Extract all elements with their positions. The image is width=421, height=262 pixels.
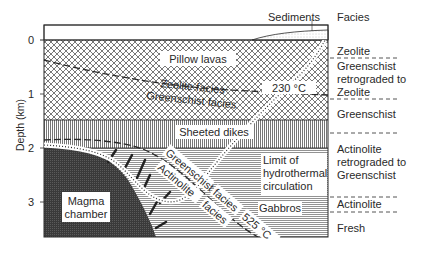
facies-fresh: Fresh	[337, 222, 365, 234]
magma-chamber-label-1: Magma	[68, 195, 106, 207]
depth-tick-3: 3	[28, 196, 34, 208]
facies-gs-retro-3: Zeolite	[337, 86, 370, 98]
facies-header: Facies	[337, 11, 370, 23]
hydrothermal-limit-label-3: circulation	[263, 180, 313, 192]
oceanic-crust-metamorphism-diagram: 0 1 2 3 Depth (km) Pillow lavas Zeolite …	[0, 0, 421, 262]
hydrothermal-limit-label-2: hydrothermal	[263, 167, 327, 179]
facies-act-retro-1: Actinolite	[337, 143, 382, 155]
hydrothermal-limit-label-1: Limit of	[263, 154, 299, 166]
depth-tick-1: 1	[28, 88, 34, 100]
depth-axis: 0 1 2 3 Depth (km)	[14, 34, 44, 208]
facies-gs-retro-1: Greenschist	[337, 60, 396, 72]
facies-greenschist: Greenschist	[337, 108, 396, 120]
facies-zeolite: Zeolite	[337, 45, 370, 57]
depth-axis-label: Depth (km)	[14, 99, 26, 151]
facies-column: Zeolite Greenschist retrograded to Zeoli…	[330, 45, 406, 234]
depth-tick-2: 2	[28, 142, 34, 154]
facies-act-retro-2: retrograded to	[337, 156, 406, 168]
facies-actinolite: Actinolite	[337, 198, 382, 210]
sheeted-dikes-label: Sheeted dikes	[179, 126, 249, 138]
gabbros-label: Gabbros	[259, 202, 302, 214]
temp-230-label: 230 °C	[272, 82, 306, 94]
magma-chamber-label-2: chamber	[65, 208, 108, 220]
facies-gs-retro-2: retrograded to	[337, 73, 406, 85]
sediments-label: Sediments	[268, 11, 320, 23]
depth-tick-0: 0	[28, 34, 34, 46]
facies-act-retro-3: Greenschist	[337, 169, 396, 181]
pillow-lavas-label: Pillow lavas	[169, 53, 227, 65]
